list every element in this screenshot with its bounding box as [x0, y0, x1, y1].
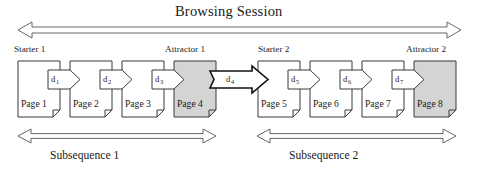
- transition-d5-index: 5: [295, 78, 299, 85]
- transition-d5-label: d5: [291, 75, 299, 84]
- page-node-8-label: Page 8: [417, 99, 443, 109]
- page-node-1-label: Page 1: [21, 99, 47, 109]
- page-node-4-label: Page 4: [177, 99, 203, 109]
- transition-d6-index: 6: [347, 78, 351, 85]
- transition-d3-index: 3: [159, 78, 163, 85]
- browsing-session-diagram: Browsing Session: [0, 0, 477, 174]
- starter-2-label: Starter 2: [258, 45, 289, 54]
- transition-d4-index: 4: [230, 78, 234, 85]
- transition-d1-label: d1: [51, 75, 59, 84]
- page-node-3-label: Page 3: [125, 99, 151, 109]
- transition-d1-index: 1: [55, 78, 59, 85]
- transition-d6-label: d6: [343, 75, 351, 84]
- transition-d2-index: 2: [107, 78, 111, 85]
- attractor-1-label: Attractor 1: [165, 45, 205, 54]
- subsequence-1-label: Subsequence 1: [50, 150, 119, 162]
- transition-d2-label: d2: [103, 75, 111, 84]
- transition-d4-label: d4: [226, 75, 234, 84]
- diagram-vector-layer: [0, 0, 477, 174]
- subsequence-1-span-arrow: [18, 129, 216, 143]
- attractor-2-label: Attractor 2: [406, 45, 446, 54]
- page-node-7-label: Page 7: [365, 99, 391, 109]
- page-node-6-label: Page 6: [313, 99, 339, 109]
- browsing-session-span-arrow: [18, 22, 461, 38]
- subsequence-2-span-arrow: [257, 129, 456, 143]
- transition-d7-index: 7: [399, 78, 403, 85]
- starter-1-label: Starter 1: [14, 45, 45, 54]
- transition-d7-label: d7: [395, 75, 403, 84]
- subsequence-2-label: Subsequence 2: [289, 150, 358, 162]
- page-node-5-label: Page 5: [261, 99, 287, 109]
- transition-d3-label: d3: [155, 75, 163, 84]
- page-node-2-label: Page 2: [73, 99, 99, 109]
